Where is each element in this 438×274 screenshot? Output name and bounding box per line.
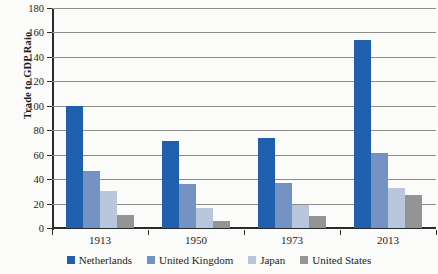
legend-swatch-icon — [300, 256, 308, 264]
bar — [309, 216, 326, 228]
legend-label: United States — [312, 254, 371, 266]
legend-item: United States — [300, 254, 371, 266]
y-axis-tick — [47, 57, 52, 58]
y-axis-tick-label: 180 — [28, 3, 44, 14]
x-axis-tick-labels: 1913195019732013 — [52, 234, 436, 250]
x-axis-tick-label: 2013 — [377, 234, 399, 246]
y-axis-tick-label: 140 — [28, 51, 44, 62]
y-axis-tick-label: 0 — [39, 223, 44, 234]
bar — [388, 188, 405, 228]
bar — [162, 141, 179, 228]
bar-group — [162, 141, 230, 228]
y-axis-tick-label: 60 — [34, 149, 45, 160]
bar-group — [354, 40, 422, 228]
x-axis-tick — [436, 230, 437, 235]
legend-item: United Kingdom — [147, 254, 233, 266]
y-axis-tick-label: 40 — [34, 174, 45, 185]
y-axis-tick-label: 20 — [34, 198, 45, 209]
plot-area: 020406080100120140160180 — [52, 8, 436, 230]
gridline — [52, 8, 436, 9]
chart-legend: NetherlandsUnited KingdomJapanUnited Sta… — [0, 254, 438, 266]
y-axis-tick-label: 120 — [28, 76, 44, 87]
chart-figure: Trade to GDP Raio 0204060801001201401601… — [0, 0, 438, 274]
gridline — [52, 32, 436, 33]
legend-label: United Kingdom — [159, 254, 233, 266]
bar — [258, 138, 275, 228]
legend-label: Japan — [260, 254, 285, 266]
plot-canvas: 020406080100120140160180 — [52, 8, 436, 230]
bar — [405, 195, 422, 228]
bar — [179, 184, 196, 228]
y-axis-tick — [47, 155, 52, 156]
bar — [196, 208, 213, 228]
bar — [371, 153, 388, 228]
legend-swatch-icon — [67, 256, 75, 264]
legend-item: Netherlands — [67, 254, 132, 266]
y-axis-tick — [47, 32, 52, 33]
y-axis-tick — [47, 179, 52, 180]
y-axis-tick — [47, 204, 52, 205]
x-axis-tick-label: 1973 — [281, 234, 303, 246]
bar — [213, 221, 230, 228]
bar-group — [66, 106, 134, 228]
bar — [66, 106, 83, 228]
bar — [275, 183, 292, 228]
x-axis-tick-label: 1950 — [185, 234, 207, 246]
y-axis-tick-label: 160 — [28, 27, 44, 38]
bar-group — [258, 138, 326, 228]
legend-swatch-icon — [147, 256, 155, 264]
bar — [100, 191, 117, 228]
y-axis-tick — [47, 228, 52, 229]
bar — [292, 205, 309, 228]
legend-label: Netherlands — [79, 254, 132, 266]
bar — [117, 215, 134, 228]
bar — [83, 171, 100, 228]
y-axis-tick-label: 100 — [28, 100, 44, 111]
y-axis-tick — [47, 8, 52, 9]
y-axis-tick-label: 80 — [34, 125, 45, 136]
bar — [354, 40, 371, 228]
y-axis-tick — [47, 81, 52, 82]
legend-item: Japan — [248, 254, 285, 266]
legend-swatch-icon — [248, 256, 256, 264]
y-axis-tick — [47, 130, 52, 131]
y-axis-tick — [47, 106, 52, 107]
y-axis-spine — [52, 8, 54, 230]
x-axis-tick-label: 1913 — [89, 234, 111, 246]
